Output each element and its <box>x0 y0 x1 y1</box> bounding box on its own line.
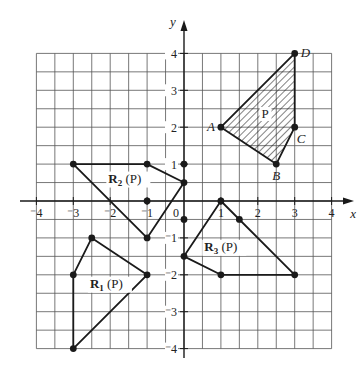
vertex-label-D: D <box>300 45 311 60</box>
vertex-point <box>181 179 188 186</box>
x-tick-label: ⁻3 <box>67 206 79 220</box>
vertex-point <box>291 50 298 57</box>
polygon-label-R2: R2 (P) <box>108 171 141 188</box>
polygon-label-P: P <box>261 106 268 121</box>
y-tick-label: 1 <box>171 158 177 172</box>
y-axis-label: y <box>168 14 176 29</box>
vertex-point <box>291 124 298 131</box>
polygon-label-R1: R1 (P) <box>90 276 123 293</box>
labels: xy⁻4⁻3⁻2⁻1012344321⁻1⁻2⁻3⁻4PABCDR1 (P)R2… <box>30 14 356 356</box>
y-tick-label: ⁻4 <box>165 342 177 356</box>
vertex-point <box>218 124 225 131</box>
marked-point <box>181 161 188 168</box>
vertex-point <box>70 345 77 352</box>
x-tick-label: 4 <box>329 206 335 220</box>
x-tick-label: ⁻1 <box>141 206 153 220</box>
marked-point <box>236 216 243 223</box>
marked-point <box>144 198 151 205</box>
vertex-label-A: A <box>206 119 215 134</box>
vertex-point <box>218 271 225 278</box>
vertex-label-B: B <box>272 168 280 183</box>
x-tick-label: 1 <box>218 206 224 220</box>
polygon-label-R3: R3 (P) <box>204 239 237 256</box>
x-tick-label: 3 <box>292 206 298 220</box>
x-tick-label: 2 <box>255 206 261 220</box>
y-tick-label: ⁻1 <box>165 231 177 245</box>
vertex-point <box>181 253 188 260</box>
y-tick-label: 3 <box>171 84 177 98</box>
vertex-label-C: C <box>297 131 306 146</box>
x-tick-label: 0 <box>173 206 179 220</box>
y-tick-label: 4 <box>171 47 177 61</box>
vertex-point <box>70 161 77 168</box>
x-axis-arrow-icon <box>343 198 354 205</box>
x-tick-label: ⁻4 <box>30 206 42 220</box>
vertex-point <box>88 235 95 242</box>
y-tick-label: 2 <box>171 121 177 135</box>
vertex-point <box>144 161 151 168</box>
x-tick-label: ⁻2 <box>104 206 116 220</box>
y-axis-arrow-icon <box>181 20 188 31</box>
coordinate-plane-diagram: xy⁻4⁻3⁻2⁻1012344321⁻1⁻2⁻3⁻4PABCDR1 (P)R2… <box>0 0 360 375</box>
vertex-point <box>273 161 280 168</box>
x-axis-label: x <box>349 206 356 221</box>
axes <box>20 20 354 358</box>
vertex-point <box>291 271 298 278</box>
vertex-point <box>218 198 225 205</box>
vertex-point <box>70 271 77 278</box>
vertex-point <box>144 271 151 278</box>
y-tick-label: ⁻2 <box>165 268 177 282</box>
y-tick-label: ⁻3 <box>165 305 177 319</box>
vertex-point <box>144 235 151 242</box>
marked-point <box>181 216 188 223</box>
